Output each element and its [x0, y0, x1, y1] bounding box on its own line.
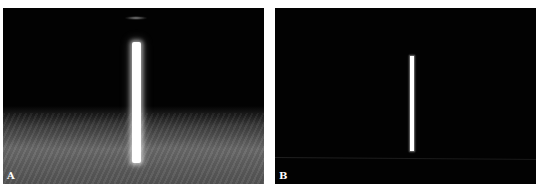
panel-b: B [275, 8, 536, 184]
faint-horizontal-line [275, 157, 536, 160]
panel-label-a: A [7, 171, 15, 181]
panel-label-b: B [279, 171, 287, 181]
thin-vertical-bar [410, 56, 414, 151]
top-glow [125, 16, 147, 20]
bright-vertical-bar [132, 42, 141, 163]
panel-a: A [3, 8, 264, 184]
